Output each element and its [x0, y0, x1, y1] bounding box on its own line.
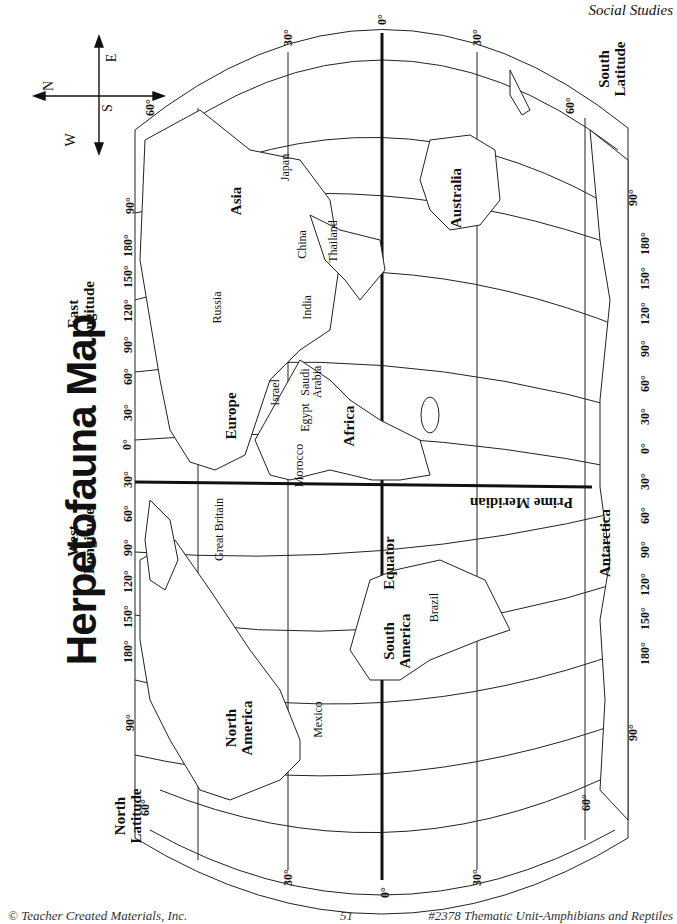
continent-europe: Europe: [223, 392, 239, 439]
country-saudi-arabia: SaudiArabia: [299, 366, 323, 399]
country-thailand: Thailand: [326, 220, 341, 263]
footer-book-title: #2378 Thematic Unit-Amphibians and Repti…: [428, 908, 673, 924]
west-longitude-label: WestLongitude: [65, 508, 97, 574]
country-russia: Russia: [210, 291, 225, 323]
compass-e-label: E: [104, 54, 120, 63]
continent-north-america: NorthAmerica: [223, 701, 255, 756]
country-mexico: Mexico: [311, 701, 326, 738]
footer-page-number: 51: [340, 908, 353, 924]
north-latitude-label: NorthLatitude: [112, 788, 144, 843]
compass-s-label: S: [100, 104, 116, 112]
continent-australia: Australia: [448, 168, 464, 228]
continent-africa: Africa: [341, 406, 357, 447]
compass-w-label: W: [63, 133, 79, 146]
footer-copyright: © Teacher Created Materials, Inc.: [8, 908, 187, 924]
antarctica-shape: [590, 130, 628, 820]
east-longitude-label: EastLongitude: [65, 281, 97, 347]
prime-meridian-label: Prime Meridian: [470, 494, 573, 511]
continent-asia: Asia: [228, 187, 244, 215]
country-japan: Japan: [278, 154, 293, 181]
country-india: India: [300, 295, 315, 320]
compass-n-label: N: [41, 81, 57, 91]
compass-rose: [34, 36, 164, 154]
prime-meridian-line: [135, 482, 592, 487]
country-china: China: [295, 230, 310, 259]
south-latitude-label: SouthLatitude: [596, 41, 628, 96]
country-israel: Israel: [268, 379, 283, 406]
continent-south-america: SouthAmerica: [381, 614, 413, 669]
continent-antarctica: Antarctica: [597, 509, 613, 577]
country-egypt: Egypt: [298, 403, 313, 432]
world-map: [0, 0, 677, 924]
country-morocco: Morocco: [292, 444, 307, 487]
country-brazil: Brazil: [427, 593, 442, 622]
equator-label: Equator: [381, 536, 397, 589]
country-great-britain: Great Britain: [212, 498, 227, 561]
